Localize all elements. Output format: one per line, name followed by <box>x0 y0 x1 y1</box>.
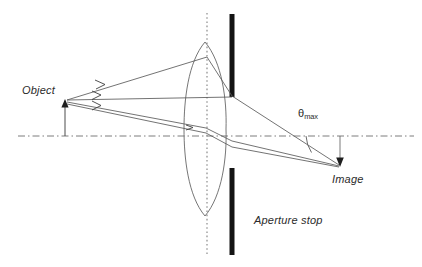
optics-ray-diagram: Object Image Aperture stop θmax <box>0 0 422 267</box>
object-label: Object <box>22 84 55 96</box>
theta-max-label: θmax <box>298 107 318 121</box>
aperture-stop-label: Aperture stop <box>254 214 323 226</box>
biconvex-lens <box>184 42 226 216</box>
upper-marginal-ray-refracted <box>232 96 339 165</box>
ray-direction-chevron-lower <box>92 101 101 110</box>
diagram-canvas <box>0 0 422 267</box>
aperture-stop-lower-bar <box>230 168 235 255</box>
aperture-stop-upper-bar <box>230 14 235 97</box>
theta-subscript: max <box>304 112 318 121</box>
ray-direction-chevron-upper <box>95 80 105 89</box>
image-label: Image <box>332 173 364 185</box>
